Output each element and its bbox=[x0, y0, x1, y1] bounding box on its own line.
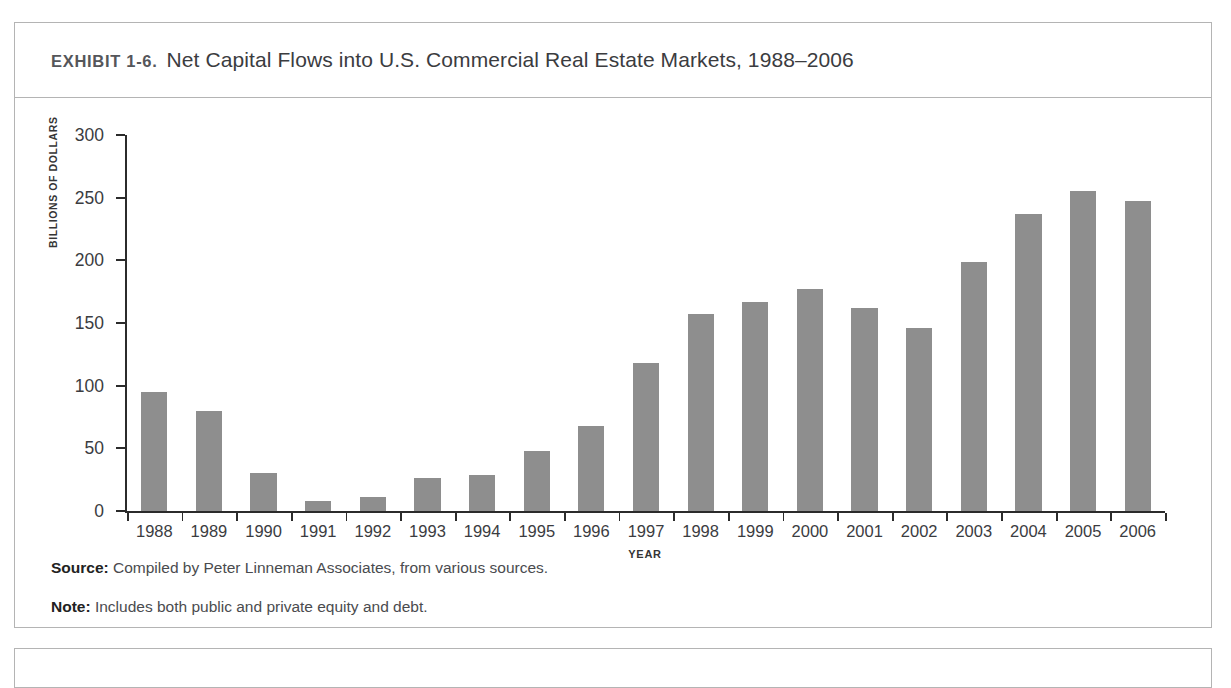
bar-1995 bbox=[524, 451, 550, 511]
x-tick-label-1997: 1997 bbox=[628, 522, 665, 541]
chart-plot-area: BILLIONS OF DOLLARS 050100150200250300 Y… bbox=[15, 98, 1211, 558]
x-tick-label-2003: 2003 bbox=[955, 522, 992, 541]
exhibit-title-band: EXHIBIT 1-6. Net Capital Flows into U.S.… bbox=[15, 23, 1211, 98]
y-tick-mark bbox=[116, 134, 125, 136]
bar-1999 bbox=[742, 302, 768, 511]
bar-1991 bbox=[305, 501, 331, 511]
bar-2004 bbox=[1015, 214, 1041, 511]
x-tick-label-2004: 2004 bbox=[1010, 522, 1047, 541]
x-tick-label-1994: 1994 bbox=[464, 522, 501, 541]
title-inner: EXHIBIT 1-6. Net Capital Flows into U.S.… bbox=[15, 48, 854, 72]
bar-2006 bbox=[1125, 201, 1151, 511]
x-tick-mark bbox=[837, 513, 839, 521]
x-tick-mark bbox=[892, 513, 894, 521]
bar-1993 bbox=[414, 478, 440, 511]
bar-2005 bbox=[1070, 191, 1096, 511]
y-tick-label-250: 250 bbox=[58, 187, 104, 208]
y-tick-mark bbox=[116, 322, 125, 324]
x-tick-mark bbox=[291, 513, 293, 521]
x-tick-mark bbox=[728, 513, 730, 521]
x-tick-label-1988: 1988 bbox=[136, 522, 173, 541]
note-label: Note: bbox=[51, 598, 91, 615]
bar-1992 bbox=[360, 497, 386, 511]
y-tick-label-200: 200 bbox=[58, 250, 104, 271]
y-tick-label-100: 100 bbox=[58, 375, 104, 396]
x-tick-mark bbox=[509, 513, 511, 521]
x-tick-mark bbox=[946, 513, 948, 521]
bar-1988 bbox=[141, 392, 167, 511]
bar-2001 bbox=[851, 308, 877, 511]
x-tick-mark bbox=[1165, 513, 1167, 521]
bar-2003 bbox=[961, 262, 987, 511]
exhibit-number-label: EXHIBIT 1-6. bbox=[51, 52, 158, 71]
x-tick-label-1990: 1990 bbox=[245, 522, 282, 541]
y-tick-mark bbox=[116, 197, 125, 199]
y-tick-mark bbox=[116, 385, 125, 387]
x-tick-mark bbox=[783, 513, 785, 521]
y-tick-mark bbox=[116, 447, 125, 449]
bar-1997 bbox=[633, 363, 659, 511]
x-tick-label-2002: 2002 bbox=[901, 522, 938, 541]
x-tick-mark bbox=[455, 513, 457, 521]
exhibit-title-text: Net Capital Flows into U.S. Commercial R… bbox=[167, 48, 854, 72]
source-label: Source: bbox=[51, 559, 109, 576]
y-tick-mark bbox=[116, 510, 125, 512]
x-tick-mark bbox=[182, 513, 184, 521]
y-tick-label-0: 0 bbox=[58, 501, 104, 522]
x-tick-label-2006: 2006 bbox=[1119, 522, 1156, 541]
y-tick-label-50: 50 bbox=[58, 438, 104, 459]
x-tick-mark bbox=[1056, 513, 1058, 521]
y-tick-label-300: 300 bbox=[58, 125, 104, 146]
x-tick-label-1992: 1992 bbox=[354, 522, 391, 541]
bar-series bbox=[127, 135, 1165, 511]
y-tick-label-150: 150 bbox=[58, 313, 104, 334]
x-tick-label-1989: 1989 bbox=[191, 522, 228, 541]
y-tick-mark bbox=[116, 259, 125, 261]
bar-1998 bbox=[688, 314, 714, 511]
bar-2000 bbox=[797, 289, 823, 511]
next-exhibit-container bbox=[14, 648, 1212, 688]
x-tick-mark bbox=[619, 513, 621, 521]
x-tick-label-1999: 1999 bbox=[737, 522, 774, 541]
source-text: Compiled by Peter Linneman Associates, f… bbox=[109, 559, 548, 576]
y-axis-tick-labels: 050100150200250300 bbox=[58, 98, 104, 558]
x-tick-mark bbox=[400, 513, 402, 521]
x-tick-mark bbox=[127, 513, 129, 521]
x-tick-label-1995: 1995 bbox=[518, 522, 555, 541]
bar-1989 bbox=[196, 411, 222, 511]
x-tick-mark bbox=[1001, 513, 1003, 521]
note-line: Note: Includes both public and private e… bbox=[51, 598, 1151, 616]
x-tick-mark bbox=[346, 513, 348, 521]
bar-2002 bbox=[906, 328, 932, 511]
exhibit-container: EXHIBIT 1-6. Net Capital Flows into U.S.… bbox=[14, 22, 1212, 628]
x-tick-label-1993: 1993 bbox=[409, 522, 446, 541]
source-line: Source: Compiled by Peter Linneman Assoc… bbox=[51, 559, 1151, 577]
bar-1994 bbox=[469, 475, 495, 511]
x-tick-label-2001: 2001 bbox=[846, 522, 883, 541]
x-tick-mark bbox=[236, 513, 238, 521]
bar-1996 bbox=[578, 426, 604, 511]
note-text: Includes both public and private equity … bbox=[91, 598, 428, 615]
x-tick-mark bbox=[673, 513, 675, 521]
footnotes-block: Source: Compiled by Peter Linneman Assoc… bbox=[51, 559, 1151, 637]
x-tick-label-1998: 1998 bbox=[682, 522, 719, 541]
x-tick-mark bbox=[564, 513, 566, 521]
x-tick-mark bbox=[1110, 513, 1112, 521]
x-tick-label-1996: 1996 bbox=[573, 522, 610, 541]
x-tick-label-2000: 2000 bbox=[792, 522, 829, 541]
x-tick-label-2005: 2005 bbox=[1065, 522, 1102, 541]
x-axis-line bbox=[125, 511, 1165, 513]
bar-1990 bbox=[250, 473, 276, 511]
x-tick-label-1991: 1991 bbox=[300, 522, 337, 541]
